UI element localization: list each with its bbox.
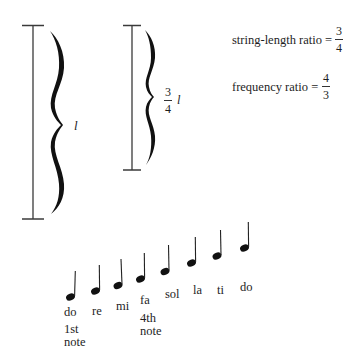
note-label-mi: mi <box>116 300 129 313</box>
note-label-la: la <box>193 284 202 297</box>
note-label-re: re <box>92 305 102 318</box>
string-length-ratio-label: string-length ratio = <box>232 34 332 47</box>
fraction-denominator: 4 <box>336 42 342 54</box>
full-string <box>22 25 44 219</box>
note-do-low <box>65 271 76 302</box>
fraction-bar <box>335 39 343 40</box>
note-mi <box>112 259 123 291</box>
note-label-fa: fa <box>140 294 150 307</box>
first-note-line2: note <box>64 336 86 349</box>
note-sol <box>159 245 170 277</box>
note-ti <box>211 230 222 261</box>
three-quarter-brace <box>145 30 155 165</box>
full-length-label: l <box>74 119 78 132</box>
note-label-sol: sol <box>165 288 180 301</box>
diagram-canvas <box>0 0 363 364</box>
full-length-brace <box>50 31 64 214</box>
note-label-do-high: do <box>240 281 253 294</box>
three-quarter-length-symbol: l <box>177 94 180 107</box>
fraction-denominator: 3 <box>323 89 329 101</box>
note-re <box>90 265 101 296</box>
fourth-note-line2: note <box>140 325 162 338</box>
note-la <box>186 237 197 268</box>
note-fa <box>135 253 146 284</box>
fraction-numerator: 3 <box>165 86 171 98</box>
fraction-numerator: 3 <box>336 25 342 37</box>
frequency-ratio-label: frequency ratio = <box>232 81 318 94</box>
note-do-high <box>239 222 250 253</box>
fraction-bar <box>164 100 172 101</box>
string-length-ratio-fraction: 3 4 <box>335 25 343 54</box>
three-quarter-fraction: 3 4 <box>164 86 172 115</box>
fraction-numerator: 4 <box>323 72 329 84</box>
note-label-do: do <box>64 306 77 319</box>
first-note-line1: 1st <box>64 323 79 336</box>
fraction-denominator: 4 <box>165 103 171 115</box>
note-label-ti: ti <box>217 284 224 297</box>
frequency-ratio-fraction: 4 3 <box>322 72 330 101</box>
fourth-note-line1: 4th <box>140 312 156 325</box>
fraction-bar <box>322 86 330 87</box>
three-quarter-string <box>123 25 141 170</box>
